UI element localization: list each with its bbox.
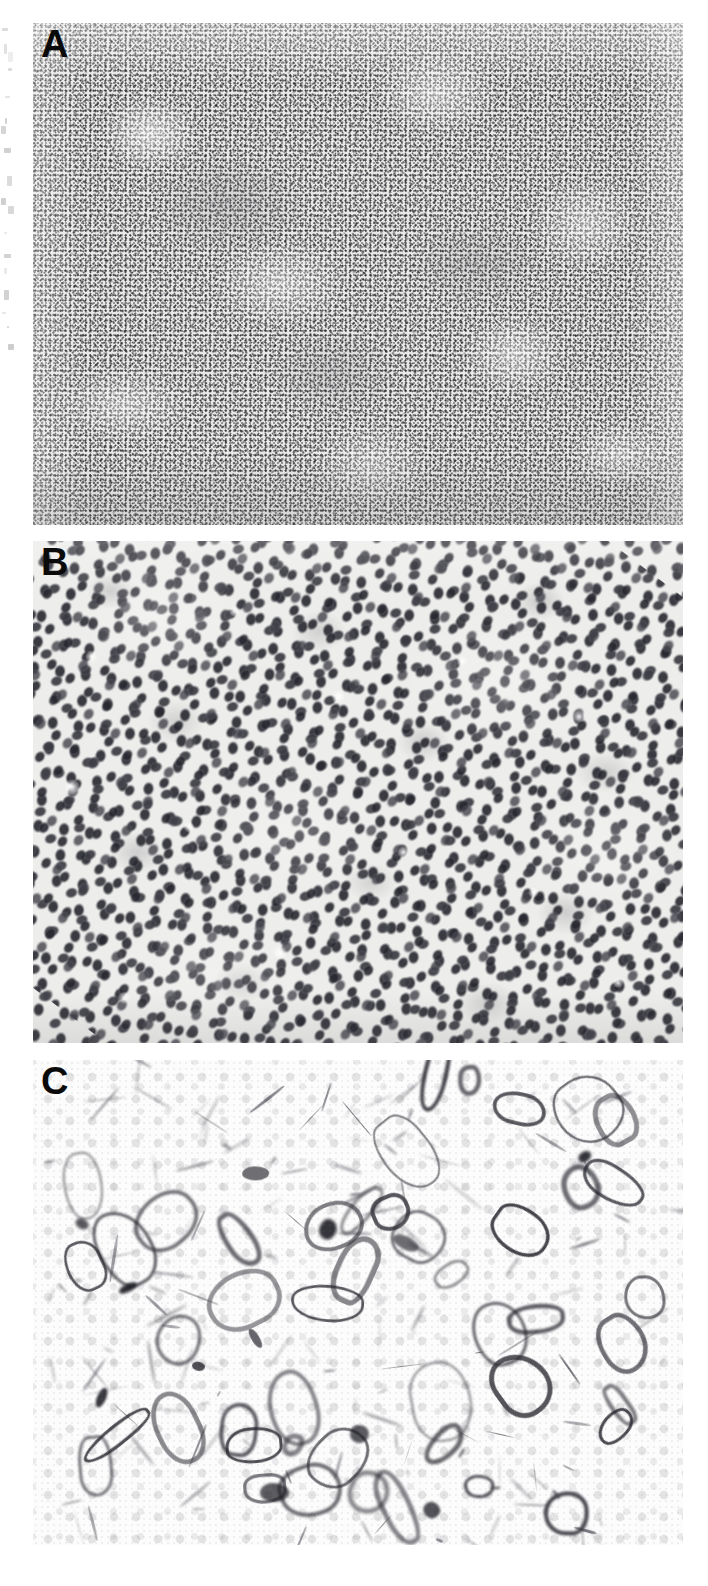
scan-artifact-mark	[1, 126, 6, 134]
figure-root: A B C	[0, 0, 708, 1586]
scan-artifact-mark	[1, 198, 6, 205]
scan-artifact-mark	[4, 148, 11, 153]
scan-artifact-mark	[4, 268, 7, 274]
scan-artifact-mark	[8, 52, 13, 62]
scan-artifact-mark	[8, 206, 14, 214]
scan-artifact-mark	[4, 254, 11, 258]
panel-c: C	[33, 1060, 683, 1545]
scan-artifact-mark	[4, 44, 7, 54]
panel-b-label: B	[41, 543, 68, 581]
scan-artifact-mark	[5, 96, 10, 98]
scan-margin-artifacts	[0, 0, 22, 360]
ihc-strong-focus	[260, 1482, 289, 1502]
panel-c-label: C	[41, 1062, 68, 1100]
panel-a-base	[33, 23, 683, 525]
scan-artifact-mark	[2, 312, 6, 314]
scan-artifact-mark	[7, 176, 12, 186]
scan-artifact-mark	[4, 290, 9, 300]
panel-b: B	[33, 541, 683, 1043]
ihc-dendritic-process	[74, 1279, 82, 1282]
scan-artifact-mark	[5, 118, 7, 124]
panel-a-label: A	[41, 25, 68, 63]
ihc-dendritic-process	[338, 1231, 372, 1234]
scan-artifact-mark	[7, 326, 9, 328]
ihc-strong-focus	[242, 1165, 269, 1180]
scan-artifact-mark	[2, 28, 8, 31]
scan-artifact-mark	[8, 344, 14, 350]
panel-b-base	[33, 541, 683, 1043]
panel-a: A	[33, 23, 683, 525]
scan-artifact-mark	[4, 232, 7, 234]
scan-artifact-mark	[8, 68, 12, 71]
